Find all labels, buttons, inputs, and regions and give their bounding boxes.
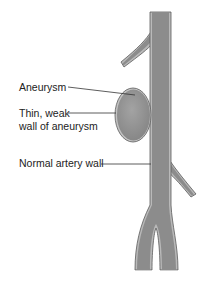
upper-branch-vessel xyxy=(121,30,152,67)
label-thin-wall-line1: Thin, weak xyxy=(19,107,70,119)
vessel-fade xyxy=(130,258,185,272)
label-normal-artery-wall: Normal artery wall xyxy=(19,157,104,169)
aneurysm-bulge xyxy=(115,88,151,142)
label-thin-wall-line2: wall of aneurysm xyxy=(19,120,98,132)
label-aneurysm: Aneurysm xyxy=(19,81,66,93)
artery-aneurysm-diagram xyxy=(0,0,208,287)
right-branch-vessel xyxy=(168,158,196,197)
